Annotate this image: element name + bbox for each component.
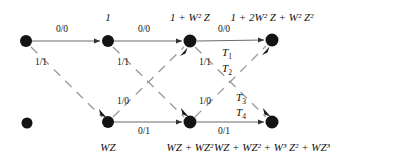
node-t2-bottom[interactable] <box>184 116 197 129</box>
state-label-top-stage3: 1 + 2W² Z + W² Z² <box>231 12 314 23</box>
state-label-top-stage2: 1 + W² Z <box>170 12 210 23</box>
arrowhead-into-t1-bot <box>99 109 107 118</box>
state-label-bottom-stage1: WZ <box>100 142 115 153</box>
edge-label-diag-up-1: 1/0 <box>117 97 129 107</box>
transition-marker-T4: T4 <box>236 107 246 121</box>
transition-marker-T3-sub: 3 <box>242 97 246 106</box>
transition-marker-T2: T2 <box>222 63 232 77</box>
transition-marker-T1-sub: 1 <box>228 52 232 61</box>
edge-label-diag-down-2: 1/1 <box>199 58 211 68</box>
state-label-bottom-stage3: WZ + WZ² + W³ Z² + WZ³ <box>214 142 330 153</box>
edge-label-top-1: 0/0 <box>138 25 150 35</box>
node-t1-bottom[interactable] <box>102 116 114 128</box>
transition-marker-T1: T1 <box>222 47 232 61</box>
edge-label-top-0: 0/0 <box>56 25 68 35</box>
edge-label-diag-down-1: 1/1 <box>117 58 129 68</box>
edge-label-diag-up-2: 1/0 <box>199 97 211 107</box>
node-t0-top[interactable] <box>20 35 32 47</box>
node-t3-top[interactable] <box>266 34 279 47</box>
edge-label-bottom-1: 0/1 <box>138 127 150 137</box>
node-t0-bottom[interactable] <box>22 118 33 129</box>
node-t1-top[interactable] <box>102 35 114 47</box>
diagram-canvas: 1 1 + W² Z 1 + 2W² Z + W² Z² WZ WZ + WZ²… <box>0 0 396 164</box>
edge-label-top-2: 0/0 <box>218 25 230 35</box>
arrowhead-into-t3-top <box>262 47 270 56</box>
node-t2-top[interactable] <box>184 35 197 48</box>
transition-marker-T4-sub: 4 <box>242 112 246 121</box>
state-label-top-stage1: 1 <box>105 12 111 23</box>
node-t3-bottom[interactable] <box>266 116 279 129</box>
transition-marker-T3: T3 <box>236 92 246 106</box>
edge-top-stage2-stage3 <box>197 40 264 41</box>
state-label-bottom-stage2: WZ + WZ² <box>167 142 214 153</box>
edge-label-bottom-2: 0/1 <box>218 127 230 137</box>
transition-marker-T2-sub: 2 <box>228 68 232 77</box>
arrowhead-into-t2-top <box>180 48 188 57</box>
edge-label-diag-down-0: 1/1 <box>35 58 47 68</box>
